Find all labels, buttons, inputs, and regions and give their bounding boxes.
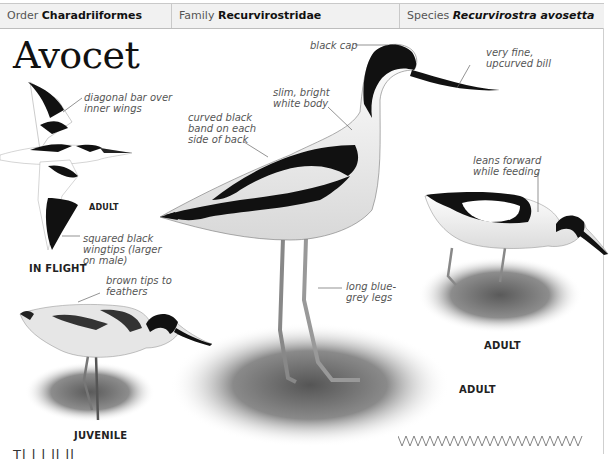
- caption-feeding-adult: ADULT: [484, 340, 521, 351]
- caption-juvenile: JUVENILE: [74, 430, 127, 441]
- note-wing-bar: diagonal bar overinner wings: [84, 92, 172, 114]
- zigzag-divider: [398, 435, 588, 447]
- caption-flight-age: ADULT: [89, 203, 119, 212]
- note-black-cap: black cap: [310, 40, 358, 51]
- note-body: slim, brightwhite body: [273, 87, 330, 109]
- note-back-band: curved blackband on eachside of back: [188, 112, 256, 145]
- caption-standing-adult: ADULT: [459, 384, 496, 395]
- caption-in-flight: IN FLIGHT: [29, 263, 87, 274]
- note-wingtips: squared blackwingtips (largeron male): [83, 233, 162, 266]
- note-legs: long blue-grey legs: [346, 281, 396, 303]
- note-feeding: leans forwardwhile feeding: [473, 155, 541, 177]
- body-text-cutoff: Tl l l ll ll: [13, 447, 75, 462]
- note-bill: very fine,upcurved bill: [486, 47, 551, 69]
- note-juvenile-tips: brown tips tofeathers: [106, 275, 172, 297]
